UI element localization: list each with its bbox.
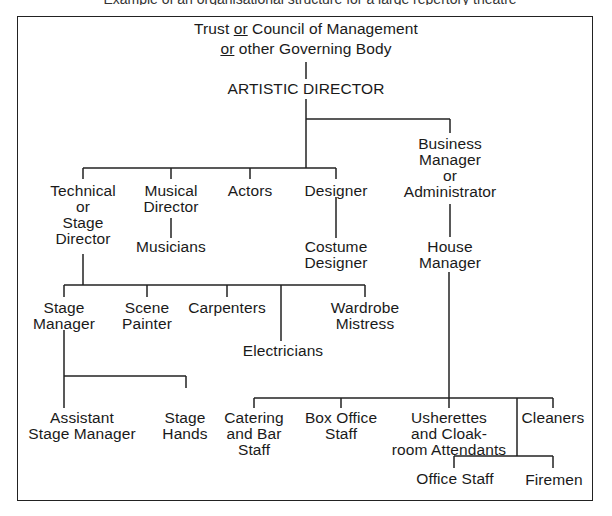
label-line: or — [50, 199, 116, 215]
label-line: Manager — [33, 316, 95, 332]
label-line: Manager — [419, 255, 481, 271]
label-line: Assistant — [28, 410, 135, 426]
label-line: Technical — [50, 183, 116, 199]
label-trust: Trust — [194, 20, 234, 37]
label-line: Stage — [50, 215, 116, 231]
label-line: and Bar — [224, 426, 283, 442]
label-line: Director — [143, 199, 198, 215]
node-usherettes: Usherettes and Cloak- room Attendants — [392, 410, 506, 458]
node-box-office-staff: Box Office Staff — [305, 410, 377, 442]
label-line: Wardrobe — [331, 300, 399, 316]
node-technical-director: Technical or Stage Director — [50, 183, 116, 247]
node-artistic-director: ARTISTIC DIRECTOR — [227, 81, 384, 97]
node-house-manager: House Manager — [419, 239, 481, 271]
governing-body-line1: Trust or Council of Management — [194, 21, 418, 37]
label-line: Staff — [305, 426, 377, 442]
label-line: Scene — [122, 300, 172, 316]
label-line: or — [404, 168, 497, 184]
label-council: Council of Management — [248, 20, 418, 37]
node-cleaners: Cleaners — [522, 410, 585, 426]
node-governing-body: Trust or Council of Management or other … — [194, 21, 418, 57]
label-line: Director — [50, 231, 116, 247]
label-line: Administrator — [404, 184, 497, 200]
node-office-staff: Office Staff — [416, 471, 493, 487]
label-line: House — [419, 239, 481, 255]
governing-body-line2: or other Governing Body — [194, 41, 418, 57]
node-scene-painter: Scene Painter — [122, 300, 172, 332]
node-stage-hands: Stage Hands — [162, 410, 207, 442]
label-line: Hands — [162, 426, 207, 442]
label-line: Staff — [224, 442, 283, 458]
node-designer: Designer — [305, 183, 368, 199]
node-electricians: Electricians — [243, 343, 323, 359]
label-or-underlined: or — [234, 20, 248, 37]
node-carpenters: Carpenters — [188, 300, 266, 316]
label-line: and Cloak- — [392, 426, 506, 442]
node-firemen: Firemen — [525, 472, 583, 488]
label-or-underlined: or — [220, 40, 234, 57]
label-line: Painter — [122, 316, 172, 332]
label-line: Musical — [143, 183, 198, 199]
node-wardrobe-mistress: Wardrobe Mistress — [331, 300, 399, 332]
label-line: Stage — [33, 300, 95, 316]
label-line: Usherettes — [392, 410, 506, 426]
label-line: Stage — [162, 410, 207, 426]
node-costume-designer: Costume Designer — [305, 239, 368, 271]
node-assistant-stage-manager: Assistant Stage Manager — [28, 410, 135, 442]
label-line: room Attendants — [392, 442, 506, 458]
node-catering-bar-staff: Catering and Bar Staff — [224, 410, 283, 458]
label-line: Box Office — [305, 410, 377, 426]
node-musical-director: Musical Director — [143, 183, 198, 215]
label-line: Costume — [305, 239, 368, 255]
label-line: Manager — [404, 152, 497, 168]
label-governing-body: other Governing Body — [234, 40, 391, 57]
node-actors: Actors — [228, 183, 273, 199]
label-line: Mistress — [331, 316, 399, 332]
label-line: Stage Manager — [28, 426, 135, 442]
node-business-manager: Business Manager or Administrator — [404, 136, 497, 200]
label-line: Designer — [305, 255, 368, 271]
label-line: Business — [404, 136, 497, 152]
node-musicians: Musicians — [136, 239, 206, 255]
node-stage-manager: Stage Manager — [33, 300, 95, 332]
label-line: Catering — [224, 410, 283, 426]
